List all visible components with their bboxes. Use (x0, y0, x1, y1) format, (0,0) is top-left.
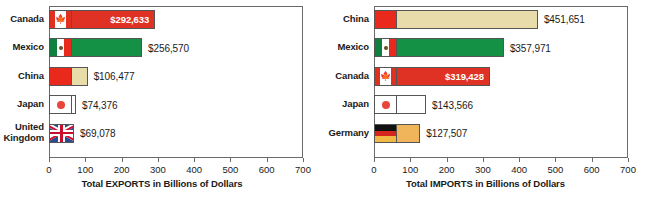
category-label-mexico: Mexico (0, 42, 44, 53)
x-axis-tick-label: 100 (395, 164, 425, 175)
category-label-japan: Japan (323, 99, 369, 110)
x-axis-tick (49, 158, 50, 162)
flag-segment (375, 125, 397, 142)
x-axis-tick-label: 600 (252, 164, 282, 175)
bar-value-label: $292,633 (110, 14, 149, 25)
x-axis-tick (519, 158, 520, 162)
x-axis-tick-label: 400 (179, 164, 209, 175)
flag-segment (50, 68, 72, 85)
category-label-canada: Canada (323, 71, 369, 82)
bar-value-label: $69,078 (80, 128, 115, 139)
x-axis-tick (158, 158, 159, 162)
bar-japan (49, 95, 76, 114)
x-axis-tick (122, 158, 123, 162)
bar-china (49, 67, 88, 86)
bar-japan (374, 95, 426, 114)
x-axis-tick-label: 500 (215, 164, 245, 175)
x-axis-tick (483, 158, 484, 162)
imports-chart: China$451,651Mexico$357,971Canada🍁$319,4… (324, 0, 647, 201)
category-label-china: China (323, 14, 369, 25)
x-axis-tick (230, 158, 231, 162)
x-axis-tick-label: 300 (143, 164, 173, 175)
category-label-mexico: Mexico (323, 42, 369, 53)
exports-chart: Canada🍁$292,633Mexico$256,570China$106,4… (0, 0, 324, 201)
bar-canada: 🍁$319,428 (374, 67, 490, 86)
x-axis-title: Total EXPORTS in Billions of Dollars (0, 178, 324, 189)
x-axis-tick-label: 300 (468, 164, 498, 175)
bar-united-kingdom (49, 124, 74, 143)
category-label-line1: United (0, 122, 44, 133)
flag-segment: 🍁 (375, 68, 397, 85)
x-axis-title: Total IMPORTS in Billions of Dollars (324, 178, 647, 189)
x-axis-tick-label: 0 (34, 164, 64, 175)
x-axis-tick-label: 200 (107, 164, 137, 175)
flag-japan-icon (50, 96, 71, 113)
bar-mexico (49, 38, 142, 57)
flag-canada-icon: 🍁 (50, 11, 71, 28)
bar-value-label: $74,376 (82, 99, 117, 110)
x-axis-tick (555, 158, 556, 162)
bar-value-label: $256,570 (148, 42, 189, 53)
x-axis-tick-label: 400 (504, 164, 534, 175)
flag-mexico-icon (50, 39, 71, 56)
bar-germany (374, 124, 420, 143)
bar-value-label: $127,507 (426, 128, 467, 139)
x-axis-tick-label: 700 (613, 164, 643, 175)
x-axis-tick-label: 500 (540, 164, 570, 175)
flag-japan-icon (375, 96, 396, 113)
flag-china-icon (375, 11, 396, 28)
x-axis-tick (447, 158, 448, 162)
bar-china (374, 10, 538, 29)
category-label-japan: Japan (0, 99, 44, 110)
bar-value-label: $357,971 (510, 42, 551, 53)
flag-germany-icon (375, 125, 396, 142)
flag-segment (50, 39, 72, 56)
x-axis-tick (303, 158, 304, 162)
x-axis-tick (267, 158, 268, 162)
flag-mexico-icon (375, 39, 396, 56)
x-axis-tick (85, 158, 86, 162)
x-axis-tick-label: 0 (359, 164, 389, 175)
category-label-line2: Kingdom (0, 133, 44, 144)
flag-segment (375, 96, 397, 113)
x-axis-tick-label: 700 (288, 164, 318, 175)
bar-mexico (374, 38, 504, 57)
x-axis-tick (374, 158, 375, 162)
flag-uk-icon (50, 125, 73, 142)
bar-value-label: $143,566 (432, 99, 473, 110)
flag-segment (375, 11, 397, 28)
bar-canada: 🍁$292,633 (49, 10, 155, 29)
x-axis-tick (410, 158, 411, 162)
flag-segment: 🍁 (50, 11, 72, 28)
bar-value-label: $319,428 (445, 71, 484, 82)
x-axis-tick (628, 158, 629, 162)
bar-value-label: $106,477 (94, 71, 135, 82)
trade-charts-figure: Canada🍁$292,633Mexico$256,570China$106,4… (0, 0, 647, 201)
category-label-united-kingdom: UnitedKingdom (0, 122, 44, 143)
category-label-germany: Germany (323, 128, 369, 139)
category-label-china: China (0, 71, 44, 82)
flag-china-icon (50, 68, 71, 85)
bar-value-label: $451,651 (544, 14, 585, 25)
flag-segment (375, 39, 397, 56)
x-axis-tick-label: 100 (70, 164, 100, 175)
flag-segment (50, 96, 72, 113)
x-axis-tick (194, 158, 195, 162)
x-axis-tick (592, 158, 593, 162)
flag-canada-icon: 🍁 (375, 68, 396, 85)
x-axis-tick-label: 200 (432, 164, 462, 175)
x-axis-tick-label: 600 (577, 164, 607, 175)
category-label-canada: Canada (0, 14, 44, 25)
